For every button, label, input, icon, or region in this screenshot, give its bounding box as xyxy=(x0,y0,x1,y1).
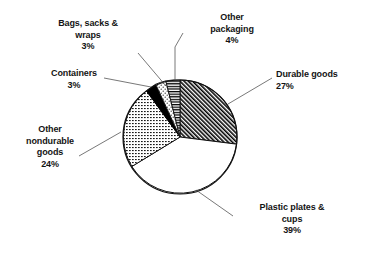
slice-label-containers: Containers 3% xyxy=(22,68,126,91)
slice-label-durable-goods: Durable goods 27% xyxy=(276,69,368,92)
leader-line-plastic-plates xyxy=(196,190,233,216)
slice-label-bags-sacks-wraps: Bags, sacks & wraps 3% xyxy=(28,18,148,53)
leader-line-bags xyxy=(138,53,166,86)
slice-label-plastic-plates-cups: Plastic plates & cups 39% xyxy=(236,202,348,237)
slice-label-other-packaging: Other packaging 4% xyxy=(186,12,278,47)
pie-slices xyxy=(123,80,237,194)
slice-label-other-nondurable-goods: Other nondurable goods 24% xyxy=(4,124,96,170)
leader-line-other-packaging xyxy=(175,33,183,80)
pie-chart-figure: Bags, sacks & wraps 3% Other packaging 4… xyxy=(0,0,369,256)
pie-slice-durable-goods[interactable] xyxy=(180,80,237,144)
leader-line-durable-goods xyxy=(228,78,272,104)
